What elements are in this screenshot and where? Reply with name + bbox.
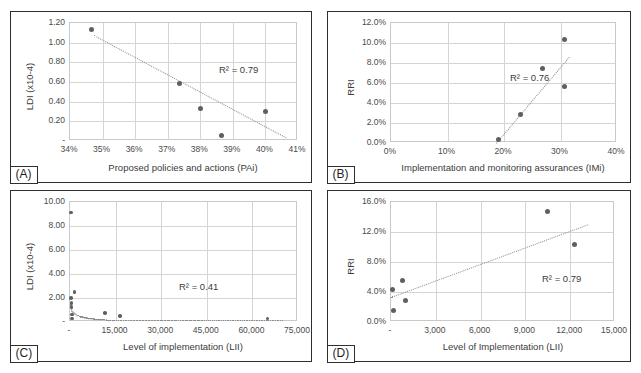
gridline-horizontal bbox=[391, 63, 615, 64]
x-axis-tick-label: 3,000 bbox=[424, 325, 445, 335]
data-point bbox=[89, 27, 94, 32]
data-point bbox=[263, 109, 268, 114]
data-point bbox=[219, 133, 224, 138]
panel-c: -2.004.006.008.0010.00 LDI (x10-4) -15,0… bbox=[10, 190, 312, 362]
data-point bbox=[69, 296, 73, 300]
trendline bbox=[94, 35, 287, 138]
data-point bbox=[562, 37, 567, 42]
data-point bbox=[118, 314, 122, 318]
data-point bbox=[198, 106, 203, 111]
gridline-vertical bbox=[436, 202, 437, 320]
data-point bbox=[70, 313, 74, 317]
panel-b-x-axis-label: Implementation and monitoring assurances… bbox=[401, 162, 604, 173]
gridline-horizontal bbox=[70, 43, 296, 44]
y-axis-tick-label: 2.0% bbox=[367, 117, 386, 127]
x-axis-tick-label: 34% bbox=[60, 144, 77, 154]
panel-d-y-axis-label: RRI bbox=[345, 212, 356, 322]
gridline-horizontal bbox=[70, 298, 296, 299]
trendline bbox=[496, 57, 570, 144]
y-axis-tick-label: 8.0% bbox=[367, 57, 386, 67]
gridline-horizontal bbox=[70, 62, 296, 63]
panel-a-x-axis-label: Proposed policies and actions (PAi) bbox=[108, 162, 257, 173]
y-axis-tick-label: 12.0% bbox=[362, 17, 386, 27]
gridline-vertical bbox=[448, 23, 449, 141]
panel-d-plot-area bbox=[390, 201, 614, 321]
data-point bbox=[391, 308, 396, 313]
gridline-vertical bbox=[161, 202, 162, 320]
x-axis-tick-label: 75,000 bbox=[284, 325, 310, 335]
x-axis-tick-label: 40% bbox=[256, 144, 273, 154]
y-axis-tick-label: 6.00 bbox=[48, 244, 65, 254]
x-axis-tick-label: 15,000 bbox=[102, 325, 128, 335]
gridline-vertical bbox=[168, 23, 169, 139]
r-squared-annotation: R² = 0.41 bbox=[179, 281, 218, 292]
gridline-vertical bbox=[252, 202, 253, 320]
x-axis-tick-label: 36% bbox=[126, 144, 143, 154]
x-axis-tick-label: 39% bbox=[223, 144, 240, 154]
gridline-horizontal bbox=[70, 250, 296, 251]
gridline-vertical bbox=[207, 202, 208, 320]
panel-d-tag: (D) bbox=[327, 345, 356, 363]
panel-b-tag: (B) bbox=[327, 166, 355, 184]
x-axis-tick-label: 60,000 bbox=[238, 325, 264, 335]
r-squared-annotation: R² = 0.79 bbox=[219, 64, 258, 75]
data-point bbox=[103, 311, 107, 315]
data-point bbox=[496, 137, 501, 142]
x-axis-tick-label: 9,000 bbox=[514, 325, 535, 335]
panel-a-y-axis-label: LDI (x10-4) bbox=[24, 32, 35, 142]
panel-d: 0.0%4.0%8.0%12.0%16.0% RRI -3,0006,0009,… bbox=[327, 190, 631, 362]
x-axis-tick-label: 15,000 bbox=[601, 325, 627, 335]
gridline-horizontal bbox=[70, 274, 296, 275]
gridline-horizontal bbox=[70, 121, 296, 122]
x-axis-tick-label: - bbox=[389, 325, 392, 335]
panel-b-plot-area bbox=[390, 22, 616, 142]
data-point bbox=[403, 298, 408, 303]
panel-a-plot-area bbox=[69, 22, 297, 140]
y-axis-tick-label: 8.00 bbox=[48, 220, 65, 230]
x-axis-tick-label: 12,000 bbox=[556, 325, 582, 335]
x-axis-tick-label: 30% bbox=[551, 146, 568, 156]
x-axis-tick-label: 40% bbox=[607, 146, 624, 156]
figure-scatter-panels: -0.200.400.600.801.001.20 LDI (x10-4) 34… bbox=[0, 0, 641, 373]
y-axis-tick-label: - bbox=[62, 316, 65, 326]
x-axis-tick-label: 20% bbox=[494, 146, 511, 156]
y-axis-tick-label: 0.60 bbox=[48, 76, 65, 86]
gridline-horizontal bbox=[391, 232, 613, 233]
data-point bbox=[572, 242, 577, 247]
gridline-horizontal bbox=[70, 226, 296, 227]
data-point bbox=[70, 305, 74, 309]
data-point bbox=[70, 301, 74, 305]
gridline-vertical bbox=[200, 23, 201, 139]
y-axis-tick-label: 1.00 bbox=[48, 37, 65, 47]
y-axis-tick-label: 10.0% bbox=[362, 37, 386, 47]
gridline-horizontal bbox=[391, 262, 613, 263]
gridline-horizontal bbox=[391, 43, 615, 44]
data-point bbox=[540, 66, 545, 71]
y-axis-tick-label: 8.0% bbox=[367, 256, 386, 266]
gridline-horizontal bbox=[391, 292, 613, 293]
x-axis-tick-label: 6,000 bbox=[469, 325, 490, 335]
r-squared-annotation: R² = 0.79 bbox=[542, 273, 581, 284]
data-point bbox=[69, 211, 73, 215]
panel-c-x-axis-label: Level of implementation (LII) bbox=[123, 341, 243, 352]
gridline-horizontal bbox=[391, 103, 615, 104]
y-axis-tick-label: 0.40 bbox=[48, 96, 65, 106]
gridline-vertical bbox=[265, 23, 266, 139]
trendline bbox=[391, 224, 588, 298]
panel-c-plot-area bbox=[69, 201, 297, 321]
data-point bbox=[400, 278, 405, 283]
x-axis-tick-label: 45,000 bbox=[193, 325, 219, 335]
trendline bbox=[277, 320, 283, 321]
panel-c-y-axis-label: LDI (x10-4) bbox=[24, 212, 35, 322]
r-squared-annotation: R² = 0.76 bbox=[510, 72, 549, 83]
gridline-vertical bbox=[233, 23, 234, 139]
x-axis-tick-label: 30,000 bbox=[147, 325, 173, 335]
y-axis-tick-label: 0.80 bbox=[48, 56, 65, 66]
gridline-vertical bbox=[570, 202, 571, 320]
y-axis-tick-label: 4.00 bbox=[48, 268, 65, 278]
y-axis-tick-label: 6.0% bbox=[367, 77, 386, 87]
y-axis-tick-label: 4.0% bbox=[367, 97, 386, 107]
x-axis-tick-label: 35% bbox=[93, 144, 110, 154]
gridline-vertical bbox=[504, 23, 505, 141]
data-point bbox=[73, 290, 77, 294]
